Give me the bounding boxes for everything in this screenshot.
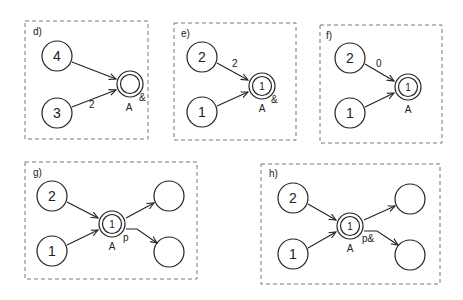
panel-g: g) 2 1 1 A p — [25, 162, 197, 279]
target-state-marker: p& — [362, 233, 375, 244]
target-state-a-name: A — [126, 102, 133, 113]
panel-h-label: h) — [269, 168, 278, 179]
output-state-top — [395, 184, 425, 214]
panel-h: h) 2 1 1 A p& — [261, 164, 440, 284]
state-node-bottom-label: 1 — [198, 104, 206, 120]
target-state-a-name: A — [109, 241, 116, 252]
edge-top-to-a — [72, 62, 116, 79]
edge-top-to-a — [308, 204, 336, 220]
edge-top-to-a — [67, 202, 98, 218]
target-state-a-count: 1 — [259, 81, 265, 92]
output-state-bottom — [395, 240, 425, 270]
target-state-marker: & — [271, 94, 278, 105]
edge-bottom-to-a — [308, 232, 336, 248]
state-node-bottom-label: 1 — [346, 105, 354, 121]
target-state-a-inner — [121, 75, 140, 94]
output-state-top — [154, 181, 184, 211]
edge-a-to-output-top — [126, 203, 154, 218]
panel-d-label: d) — [33, 26, 42, 37]
state-node-top-label: 2 — [346, 50, 354, 66]
target-state-a-name: A — [405, 104, 412, 115]
target-state-a-count: 1 — [347, 221, 353, 232]
state-node-top-label: 2 — [198, 49, 206, 65]
target-state-a-count: 1 — [109, 219, 115, 230]
target-state-a-name: A — [347, 243, 354, 254]
panel-f-border — [320, 25, 442, 143]
panel-g-label: g) — [33, 167, 42, 178]
state-node-bottom-label: 1 — [289, 246, 297, 262]
edge-bottom-to-a — [217, 92, 248, 106]
panel-d: d) 4 3 A & 2 — [25, 21, 148, 139]
panel-e: e) 2 1 1 A & 2 — [174, 23, 296, 140]
state-node-top-label: 2 — [48, 188, 56, 204]
state-node-bottom-label: 1 — [48, 243, 56, 259]
edge-bottom-to-a — [365, 93, 394, 107]
edge-bottom-to-a — [67, 230, 98, 245]
target-state-marker: & — [139, 92, 146, 103]
target-state-marker: p — [123, 232, 129, 243]
automaton-diagram-figure: d) 4 3 A & 2 e) 2 1 1 A & 2 f) 2 — [0, 0, 463, 300]
edge-top-label: 2 — [232, 58, 238, 69]
target-state-a-name: A — [259, 103, 266, 114]
state-node-top-label: 4 — [53, 48, 61, 64]
edge-bottom-label: 2 — [89, 99, 95, 110]
edge-a-to-output-bottom — [126, 229, 157, 243]
panel-e-label: e) — [181, 28, 190, 39]
state-node-top-label: 2 — [289, 190, 297, 206]
state-node-bottom-label: 3 — [53, 105, 61, 121]
edge-top-label: 0 — [376, 58, 382, 69]
panel-f-label: f) — [326, 30, 332, 41]
target-state-a-count: 1 — [405, 82, 411, 93]
panel-f: f) 2 1 1 A 0 — [320, 25, 442, 143]
edge-a-to-output-top — [364, 206, 395, 220]
output-state-bottom — [154, 237, 184, 267]
